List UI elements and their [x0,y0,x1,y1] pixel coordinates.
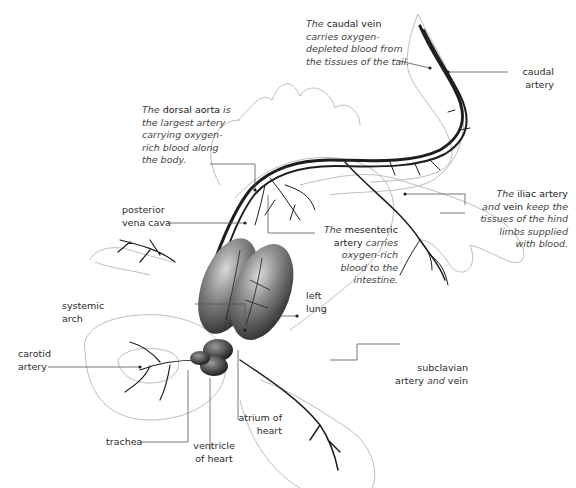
subclavian-line1: subclavian [417,362,468,373]
label-iliac: The iliac artery and vein keep the tissu… [468,188,568,251]
dorsal-aorta-line2: carrying oxygen- [142,129,223,140]
label-ventricle: ventricle of heart [190,440,238,465]
mesenteric-line2: blood to the [341,262,399,273]
dorsal-aorta-prefix: The [142,104,160,115]
iliac-and: and [482,201,500,212]
iliac-prefix: The [496,188,514,199]
systemic-arch-line2: arch [62,313,83,324]
caudal-vein-line2: depleted blood from [306,43,403,54]
label-caudal-artery: caudal artery [510,66,554,91]
dorsal-aorta-line1: the largest artery [142,117,225,128]
iliac-suffix: keep the [526,201,568,212]
body-outline [84,14,523,488]
atrium-line2: heart [257,425,282,436]
caudal-vein-term: caudal vein [327,18,382,29]
label-mesenteric-artery: The mesenteric artery carries oxygen-ric… [316,224,398,287]
trachea-line1: trachea [106,436,142,447]
iliac-line3: with blood. [515,238,568,249]
caudal-vein-line1: carries oxygen- [306,31,380,42]
subclavian-and: and [427,375,445,386]
caudal-artery-line2: artery [525,79,554,90]
label-subclavian: subclavian artery and vein [384,362,468,387]
mesenteric-prefix: The [324,224,342,235]
caudal-vein-prefix: The [306,18,324,29]
iliac-line2: limbs supplied [499,226,568,237]
left-lung-line2: lung [306,303,327,314]
label-posterior-vena-cava: posterior vena cava [122,204,171,229]
vena-cava-line1: posterior [122,204,165,215]
heart [190,339,233,376]
dorsal-aorta-line4: the body. [142,154,186,165]
dorsal-aorta-suffix: is [223,104,231,115]
ventricle-line1: ventricle [193,440,234,451]
systemic-arch-line1: systemic [62,300,104,311]
mesenteric-line3: intestine. [354,274,398,285]
iliac-term: iliac artery [517,188,568,199]
subclavian-term: artery [395,375,424,386]
carotid-line1: carotid [18,348,51,359]
ventricle-line2: of heart [195,453,233,464]
vessels [118,26,470,470]
subclavian-term2: vein [448,375,468,386]
dorsal-aorta-line3: rich blood along [142,142,218,153]
iliac-line1: tissues of the hind [480,213,568,224]
label-dorsal-aorta: The dorsal aorta is the largest artery c… [142,104,231,167]
label-trachea: trachea [106,436,142,449]
label-caudal-vein: The caudal vein carries oxygen- depleted… [306,18,409,68]
mesenteric-term2: artery [334,237,363,248]
caudal-vein-line3: the tissues of the tail. [306,56,409,67]
label-carotid-artery: carotid artery [18,348,51,373]
label-atrium: atrium of heart [236,412,282,437]
mesenteric-term: mesenteric [345,224,398,235]
dorsal-aorta-term: dorsal aorta [163,104,220,115]
label-systemic-arch: systemic arch [62,300,104,325]
mesenteric-suffix: carries [366,237,398,248]
mesenteric-line1: oxygen-rich [342,249,398,260]
iliac-term2: vein [503,201,523,212]
carotid-line2: artery [18,361,47,372]
vena-cava-line2: vena cava [122,217,171,228]
caudal-artery-line1: caudal [522,66,554,77]
atrium-line1: atrium of [238,412,282,423]
left-lung-line1: left [306,290,321,301]
label-left-lung: left lung [306,290,327,315]
